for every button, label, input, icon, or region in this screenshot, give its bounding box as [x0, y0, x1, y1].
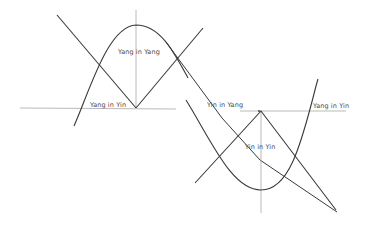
v-rise-line	[136, 28, 203, 108]
yang-bell-curve	[74, 25, 188, 126]
label-yang-in-yang: Yang in Yang	[118, 48, 160, 56]
descending-diagonal	[166, 42, 337, 212]
label-yin-in-yin: Yin in Yin	[245, 143, 275, 151]
label-yang-in-yin-left: Yang in Yin	[90, 101, 126, 109]
label-yin-in-yang: Yin in Yang	[207, 101, 243, 109]
axis-dot	[258, 110, 260, 112]
diagram-canvas	[0, 0, 365, 226]
label-yang-in-yin-right: Yang in Yin	[313, 102, 349, 110]
right-v-line	[195, 111, 336, 210]
